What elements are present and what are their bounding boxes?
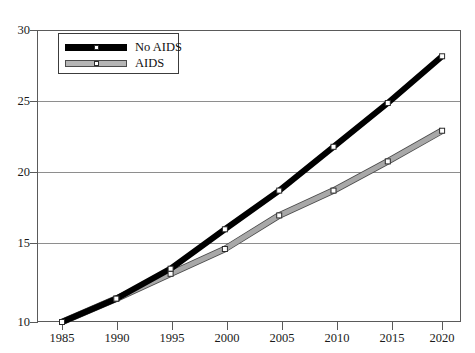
data-point [385,101,390,106]
data-point [168,266,173,271]
data-point [385,159,390,164]
data-point [277,188,282,193]
series-line-no-aids [62,56,442,322]
data-point [222,227,227,232]
data-point [440,128,445,133]
legend-item-aids: AIDS [65,55,164,71]
legend-marker-aids [94,61,99,66]
legend-swatch-aids [65,60,127,67]
legend-marker-no-aids [94,45,99,50]
data-point [168,271,173,276]
data-point [114,296,119,301]
data-point [222,247,227,252]
legend-label-no-aids: No AIDS [135,40,182,55]
series-markers-no-aids [60,54,445,325]
data-point [60,320,65,325]
legend-item-no-aids: No AIDS [65,39,182,55]
data-point [277,213,282,218]
chart-figure: 30 25 20 15 10 1985 1990 1995 2000 2005 … [0,0,475,353]
data-point [331,188,336,193]
data-point [331,144,336,149]
legend: No AIDS AIDS [58,33,179,74]
legend-label-aids: AIDS [135,56,164,71]
data-point [440,54,445,59]
legend-swatch-no-aids [65,44,127,51]
